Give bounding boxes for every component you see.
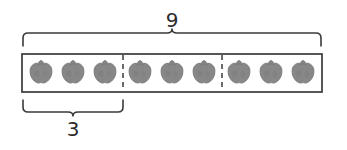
item-group-3	[228, 61, 314, 84]
group-label: 3	[67, 117, 80, 141]
grouping-array-diagram: 9	[0, 0, 347, 150]
item-group-2	[129, 61, 215, 84]
bottom-brace-path	[23, 100, 123, 116]
top-brace-path	[23, 29, 321, 46]
total-label: 9	[166, 8, 179, 32]
item-group-1	[30, 61, 116, 84]
diagram-canvas: 9	[0, 0, 347, 150]
top-brace	[23, 29, 321, 46]
bottom-brace	[23, 100, 123, 116]
